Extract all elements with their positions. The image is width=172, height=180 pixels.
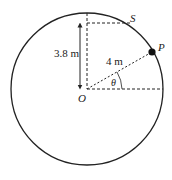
point-p-dot (148, 48, 155, 55)
height-label: 3.8 m (54, 47, 80, 59)
angle-label: θ (111, 77, 116, 88)
circle-diagram: 3.8 m 4 m θ O P S (0, 0, 172, 180)
point-s-label: S (130, 12, 136, 24)
center-label: O (78, 92, 86, 104)
angle-arc (117, 72, 122, 89)
radius-label: 4 m (106, 55, 123, 67)
point-p-label: P (157, 41, 165, 53)
